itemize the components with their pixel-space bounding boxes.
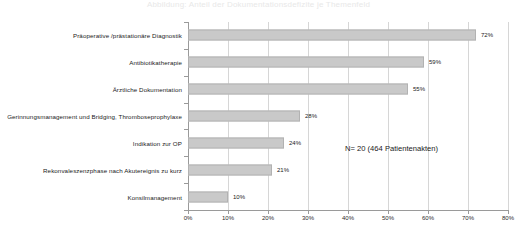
x-axis-tick	[228, 210, 229, 214]
sample-size-annotation: N= 20 (464 Patientenakten)	[345, 144, 438, 153]
bar-row: Indikation zur OP24%	[0, 129, 517, 156]
y-axis-tick	[184, 22, 188, 23]
category-label: Antibiotikatherapie	[129, 59, 182, 66]
x-axis-tick	[348, 210, 349, 214]
x-axis-tick-label: 40%	[342, 215, 354, 221]
category-label: Präoperative /prästationäre Diagnostik	[73, 32, 182, 39]
x-axis-tick-label: 60%	[422, 215, 434, 221]
category-label: Rekonvaleszenzphase nach Akutereignis zu…	[43, 166, 182, 173]
bar	[188, 30, 476, 41]
bar	[188, 84, 408, 95]
bar-value-label: 28%	[305, 113, 317, 119]
y-axis-tick	[184, 156, 188, 157]
bar	[188, 191, 228, 202]
x-axis-tick-label: 10%	[222, 215, 234, 221]
bar-value-label: 55%	[413, 86, 425, 92]
bar-row: Rekonvaleszenzphase nach Akutereignis zu…	[0, 156, 517, 183]
bar-value-label: 10%	[233, 194, 245, 200]
x-axis-tick	[508, 210, 509, 214]
category-label: Indikation zur OP	[133, 139, 182, 146]
x-axis-tick	[428, 210, 429, 214]
bar	[188, 57, 424, 68]
x-axis-tick	[268, 210, 269, 214]
y-axis-tick	[184, 129, 188, 130]
x-axis-tick	[388, 210, 389, 214]
bar-chart: Abbildung: Anteil der Dokumentationsdefi…	[0, 0, 517, 228]
y-axis-tick	[184, 183, 188, 184]
category-label: Gerinnungsmanagement und Bridging, Throm…	[7, 112, 182, 119]
bar-row: Konsilmanagement10%	[0, 183, 517, 210]
bar-value-label: 21%	[277, 167, 289, 173]
bar-row: Gerinnungsmanagement und Bridging, Throm…	[0, 103, 517, 130]
bar	[188, 164, 272, 175]
bar-row: Ärztliche Dokumentation55%	[0, 76, 517, 103]
x-axis-tick-label: 30%	[302, 215, 314, 221]
bar-value-label: 24%	[289, 140, 301, 146]
category-label: Ärztliche Dokumentation	[113, 86, 182, 93]
bar-row: Antibiotikatherapie59%	[0, 49, 517, 76]
x-axis-tick-label: 0%	[184, 215, 193, 221]
x-axis-tick-label: 50%	[382, 215, 394, 221]
y-axis-tick	[184, 76, 188, 77]
y-axis-tick	[184, 49, 188, 50]
category-label: Konsilmanagement	[127, 193, 182, 200]
bar	[188, 110, 300, 121]
x-axis-tick-label: 20%	[262, 215, 274, 221]
bar-row: Präoperative /prästationäre Diagnostik72…	[0, 22, 517, 49]
x-axis-tick	[308, 210, 309, 214]
x-axis-tick-label: 70%	[462, 215, 474, 221]
plot-area: Präoperative /prästationäre Diagnostik72…	[0, 10, 517, 228]
chart-title-clipped: Abbildung: Anteil der Dokumentationsdefi…	[0, 0, 517, 9]
bar-value-label: 72%	[481, 32, 493, 38]
x-axis-tick	[468, 210, 469, 214]
x-axis-tick-label: 80%	[502, 215, 514, 221]
y-axis-tick	[184, 103, 188, 104]
bar	[188, 137, 284, 148]
x-axis-tick	[188, 210, 189, 214]
bar-value-label: 59%	[429, 59, 441, 65]
